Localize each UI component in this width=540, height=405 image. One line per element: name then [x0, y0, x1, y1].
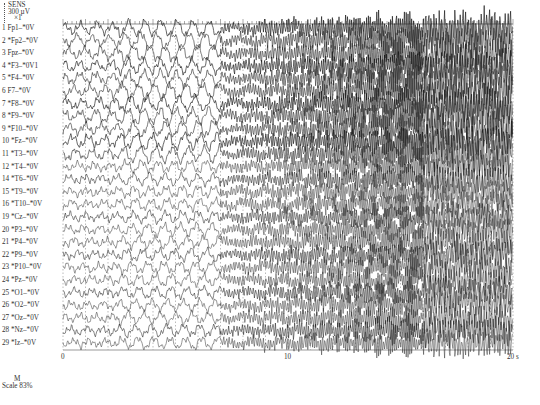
eeg-plot: [0, 0, 540, 405]
x-tick-0: 0: [61, 353, 65, 361]
x-tick-10: 10: [284, 353, 291, 361]
x-tick-20: 20 s: [507, 353, 519, 361]
